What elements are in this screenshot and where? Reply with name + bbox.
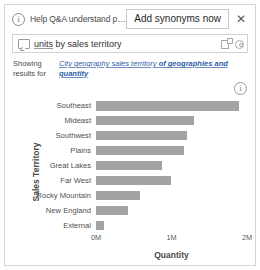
bar[interactable] [96,101,239,111]
question-box-icon [18,39,30,49]
bar[interactable] [96,161,162,171]
x-axis-title: Quantity [96,250,247,260]
bar-chart[interactable]: i Sales Territory SoutheastMideastSouthw… [5,78,255,265]
gear-icon[interactable] [235,40,244,49]
bar-category-label: Mideast [25,116,96,125]
add-synonyms-button[interactable]: Add synonyms now [126,9,229,29]
bar[interactable] [96,146,184,156]
bar-row[interactable]: New England [25,205,247,217]
showing-results-phrase[interactable]: City geography sales territory of geogra… [59,59,245,78]
term-units: units [34,39,53,49]
bar-category-label: Plains [25,146,96,155]
term-sales-territory: sales territory [68,39,122,49]
bar-row[interactable]: Great Lakes [25,160,247,172]
showing-results-label: Showing results for [13,59,55,78]
question-text: units by sales territory [34,39,217,49]
bar-row[interactable]: Rocky Mountain [25,190,247,202]
bar-track [96,160,247,172]
plot-area: SoutheastMideastSouthwestPlainsGreat Lak… [25,100,247,261]
bar-track [96,130,247,142]
x-tick-label: 1M [166,233,176,242]
question-input[interactable]: units by sales territory [12,34,248,53]
bar-row[interactable]: Southwest [25,130,247,142]
bar-row[interactable]: Southeast [25,100,247,112]
bar-category-label: Great Lakes [25,161,96,170]
bar-category-label: Rocky Mountain [25,191,96,200]
bar[interactable] [96,191,140,201]
bar-category-label: Far West [25,176,96,185]
visual-type-icon[interactable] [220,38,232,50]
term-connector: by [53,39,68,49]
bar-row[interactable]: Mideast [25,115,247,127]
bar[interactable] [96,131,187,141]
showing-results: Showing results for City geography sales… [5,53,255,78]
bar-track [96,115,247,127]
bar-track [96,175,247,187]
bar-row[interactable]: Plains [25,145,247,157]
bar-category-label: Southeast [25,101,96,110]
bar-category-label: Southwest [25,131,96,140]
bar-category-label: New England [25,206,96,215]
phrase-prefix: City geography sales territory [59,59,159,68]
bar[interactable] [96,176,171,186]
x-tick-label: 2M [242,233,252,242]
bar-track [96,145,247,157]
info-icon: i [12,13,25,26]
bar-track [96,190,247,202]
bar-track [96,100,247,112]
question-box-wrap: units by sales territory [5,33,255,53]
qna-panel: i Help Q&A understand peo... Add synonym… [4,4,256,266]
bar-category-label: External [25,221,96,230]
bar-track [96,220,247,232]
bar-track [96,205,247,217]
info-icon[interactable]: i [234,82,247,95]
close-icon[interactable]: ✕ [231,13,251,25]
x-axis: 0M1M2M [96,233,247,245]
bar[interactable] [96,221,104,231]
bar-row[interactable]: External [25,220,247,232]
bar-rows: SoutheastMideastSouthwestPlainsGreat Lak… [25,100,247,231]
bar[interactable] [96,116,194,126]
bar-row[interactable]: Far West [25,175,247,187]
bar[interactable] [96,206,128,216]
synonyms-banner: i Help Q&A understand peo... Add synonym… [5,5,255,33]
x-tick-label: 0M [91,233,101,242]
banner-message: Help Q&A understand peo... [30,14,126,24]
